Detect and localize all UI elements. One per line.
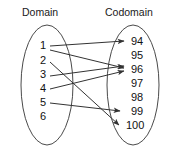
arrow-1-to-94 (50, 41, 124, 46)
codomain-element-96: 96 (131, 63, 143, 75)
domain-element-2: 2 (40, 54, 46, 66)
codomain-element-97: 97 (131, 77, 143, 89)
diagram-canvas: Domain Codomain 1 2 3 4 5 6 94 95 96 97 … (0, 0, 170, 152)
codomain-element-94: 94 (131, 35, 143, 47)
domain-element-1: 1 (40, 39, 46, 51)
arrow-4-to-96 (50, 71, 124, 89)
domain-element-6: 6 (40, 110, 46, 122)
arrow-1-to-96 (50, 50, 124, 68)
codomain-element-100: 100 (126, 119, 144, 131)
arrow-5-to-99 (50, 103, 120, 111)
domain-title: Domain (22, 6, 58, 18)
codomain-element-99: 99 (131, 105, 143, 117)
codomain-title: Codomain (105, 6, 153, 18)
codomain-element-98: 98 (131, 91, 143, 103)
domain-element-5: 5 (40, 96, 46, 108)
codomain-element-95: 95 (131, 49, 143, 61)
domain-element-3: 3 (40, 68, 46, 80)
domain-element-4: 4 (40, 82, 46, 94)
mapping-diagram: Domain Codomain 1 2 3 4 5 6 94 95 96 97 … (0, 0, 170, 152)
arrow-3-to-96 (50, 66, 124, 76)
